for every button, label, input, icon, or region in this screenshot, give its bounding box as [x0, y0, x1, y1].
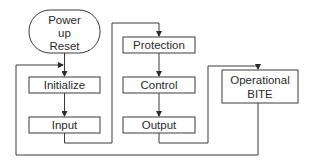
node-initialize: Initialize [29, 77, 100, 93]
protection-label: Protection [133, 39, 185, 51]
bite-line1: Operational [230, 74, 289, 86]
node-input: Input [29, 117, 100, 133]
node-protection: Protection [123, 37, 195, 53]
power-up-reset-line2: up [58, 27, 71, 39]
initialize-label: Initialize [44, 79, 86, 91]
input-label: Input [52, 119, 78, 131]
power-up-reset-line3: Reset [49, 40, 80, 52]
node-operational-bite: Operational BITE [222, 70, 298, 103]
flowchart-diagram: Power up Reset Initialize Input Protecti… [0, 0, 315, 167]
control-label: Control [140, 79, 177, 91]
bite-line2: BITE [247, 88, 273, 100]
node-output: Output [123, 117, 195, 133]
output-label: Output [142, 119, 177, 131]
power-up-reset-line1: Power [48, 14, 81, 26]
node-control: Control [123, 77, 195, 93]
node-power-up-reset: Power up Reset [29, 10, 100, 53]
